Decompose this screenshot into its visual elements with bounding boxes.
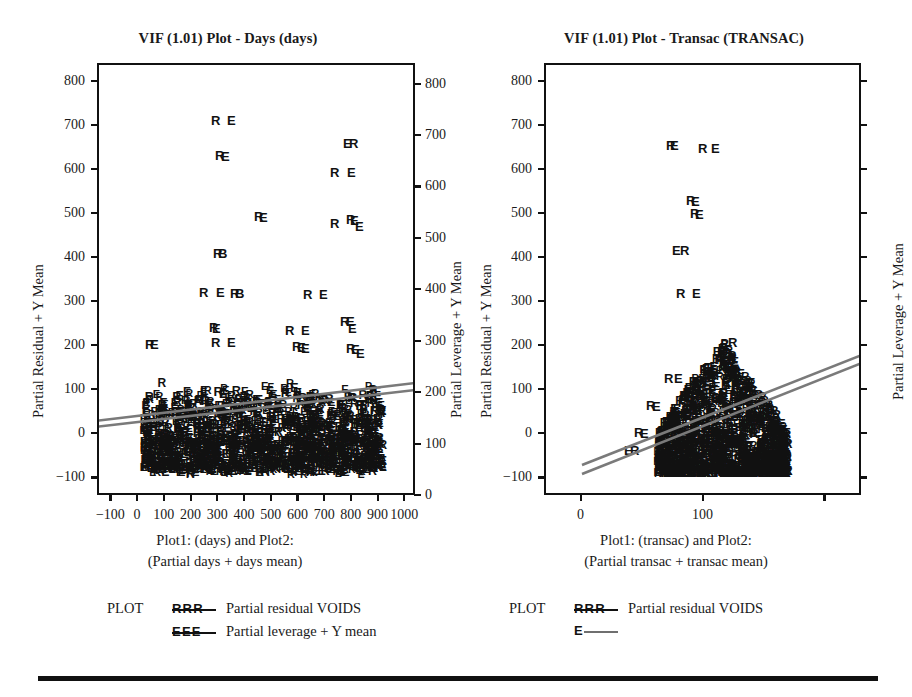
svg-text:E: E	[379, 461, 387, 473]
svg-text:E: E	[142, 424, 151, 439]
y2-tick-mark	[860, 124, 867, 126]
svg-text:E: E	[202, 445, 209, 457]
y-tick-mark	[538, 344, 545, 346]
y-tick-mark	[91, 212, 98, 214]
svg-text:E: E	[147, 463, 154, 474]
svg-text:R: R	[698, 141, 708, 156]
svg-text:R: R	[371, 446, 379, 457]
legend-row-leverage-right: E	[574, 623, 628, 638]
svg-text:E: E	[340, 465, 347, 476]
svg-text:R: R	[753, 463, 761, 474]
x-tick-mark	[216, 494, 218, 501]
y2-tick-mark	[860, 168, 867, 170]
y-tick-mark	[91, 432, 98, 434]
svg-text:R: R	[374, 430, 384, 445]
y-tick-mark	[538, 80, 545, 82]
svg-text:R: R	[213, 447, 223, 462]
x-tick-label: 100	[692, 507, 713, 523]
x-tick-label: 300	[207, 507, 228, 523]
vif-plot-panel-days: VIF (1.01) Plot - Days (days) RE RE RE R…	[0, 0, 456, 660]
svg-text:E: E	[164, 444, 171, 456]
y-tick-mark	[91, 80, 98, 82]
y2-tick-mark	[860, 300, 867, 302]
svg-text:E: E	[319, 287, 328, 302]
y-tick-mark	[91, 124, 98, 126]
y-tick-label: 400	[482, 249, 532, 265]
svg-text:R: R	[349, 136, 359, 151]
x-tick-mark	[403, 494, 405, 501]
legend-key-leverage-right: E	[574, 623, 620, 638]
svg-text:E: E	[347, 165, 356, 180]
svg-text:R: R	[162, 433, 170, 445]
svg-text:R: R	[290, 400, 299, 413]
x-tick-label: 200	[180, 507, 201, 523]
svg-text:R: R	[330, 216, 340, 231]
svg-text:E: E	[669, 413, 677, 425]
svg-text:R: R	[204, 419, 213, 432]
svg-text:E: E	[710, 457, 718, 471]
y-tick-mark	[538, 124, 545, 126]
svg-text:E: E	[301, 323, 310, 338]
svg-text:R: R	[158, 398, 167, 412]
svg-text:R: R	[781, 460, 790, 474]
svg-text:R: R	[337, 446, 345, 457]
bottom-rule	[38, 676, 878, 681]
svg-text:E: E	[222, 425, 230, 437]
y2-tick-mark	[860, 476, 867, 478]
figure-page: VIF (1.01) Plot - Days (days) RE RE RE R…	[0, 0, 912, 697]
scatter-area-left: RE RE RE RB RE RB ER RE RR EE RE RE E RE	[99, 65, 413, 493]
svg-text:E: E	[686, 386, 694, 400]
svg-text:E: E	[150, 337, 159, 352]
svg-text:R: R	[297, 398, 306, 412]
svg-text:R: R	[256, 455, 264, 467]
svg-text:R: R	[257, 467, 265, 478]
y2-tick-mark	[414, 391, 421, 393]
svg-text:R: R	[263, 442, 271, 454]
plot-frame-left: RE RE RE RB RE RB ER RE RR EE RE RE E RE	[97, 63, 415, 495]
x-tick-label: 1000	[390, 507, 418, 523]
x-axis-caption-right-line1: Plot1: (transac) and Plot2:	[511, 530, 841, 551]
svg-text:E: E	[196, 462, 203, 474]
svg-text:R: R	[306, 431, 315, 445]
svg-text:R: R	[316, 402, 325, 416]
svg-text:R: R	[227, 436, 235, 448]
y-axis-title-right-residual: Partial Residual + Y Mean	[478, 264, 495, 418]
y-tick-label: 600	[482, 161, 532, 177]
x-axis-caption-left-line1: Plot1: (days) and Plot2:	[60, 530, 390, 551]
y-tick-mark	[538, 168, 545, 170]
x-axis-caption-left-line2: (Partial days + days mean)	[60, 551, 390, 572]
svg-text:R: R	[744, 440, 753, 454]
scatter-area-right: RE RE RE RE ER RE R BR EE RE RE RE RE ER	[546, 65, 859, 493]
x-tick-mark	[377, 494, 379, 501]
svg-text:R: R	[330, 165, 340, 180]
legend-row-leverage-left: E E E Partial leverage + Y mean	[172, 623, 376, 640]
y2-tick-mark	[414, 340, 421, 342]
x-axis-caption-right-line2: (Partial transac + transac mean)	[511, 551, 841, 572]
y2-tick-mark	[414, 237, 421, 239]
svg-text:E: E	[711, 141, 720, 156]
y2-tick-mark	[860, 80, 867, 82]
legend-plot-word-left: PLOT	[107, 600, 143, 617]
y-tick-label: 700	[35, 117, 85, 133]
svg-text:R: R	[676, 286, 686, 301]
svg-text:R: R	[303, 414, 311, 426]
x-tick-mark	[136, 494, 138, 501]
y2-tick-mark	[414, 83, 421, 85]
svg-text:E: E	[766, 458, 773, 469]
x-tick-label: 500	[260, 507, 281, 523]
y-tick-label: 700	[482, 117, 532, 133]
svg-text:E: E	[325, 419, 333, 433]
svg-text:E: E	[715, 392, 722, 404]
svg-text:E: E	[171, 395, 179, 408]
legend-key-leverage-left: E E E	[172, 624, 218, 639]
svg-text:E: E	[337, 399, 345, 411]
svg-text:E: E	[652, 399, 661, 414]
y-tick-mark	[91, 168, 98, 170]
scatter-svg-left: RE RE RE RB RE RB ER RE RR EE RE RE E RE	[99, 65, 413, 493]
x-tick-mark	[163, 494, 165, 501]
x-tick-mark	[243, 494, 245, 501]
y2-tick-mark	[860, 212, 867, 214]
y-tick-mark	[91, 388, 98, 390]
y-tick-mark	[538, 300, 545, 302]
svg-text:E: E	[290, 380, 299, 395]
